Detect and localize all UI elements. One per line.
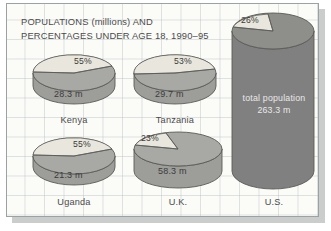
us-percent-label: 26% [241,15,259,25]
tanzania-percent-label: 53% [174,56,192,66]
tanzania-population-label: 29.7 m [155,89,184,99]
chart-uk[interactable]: 23% 58.3 m U.K. [129,126,227,213]
uganda-population-label: 21.3 m [54,170,83,180]
kenya-country-label: Kenya [28,115,120,125]
title-line-1: POPULATIONS (millions) AND [21,15,251,29]
us-population-label: 263.3 m [257,105,290,115]
us-country-label: U.S. [228,197,320,207]
title-line-2: PERCENTAGES UNDER AGE 18, 1990–95 [21,29,251,43]
chart-panel: POPULATIONS (millions) AND PERCENTAGES U… [6,3,319,217]
us-total-caption: total population [243,93,306,103]
chart-us[interactable]: 26% total population 263.3 m U.S. [228,7,320,213]
page-title: POPULATIONS (millions) AND PERCENTAGES U… [21,15,251,42]
tanzania-country-label: Tanzania [129,115,221,125]
uk-percent-label: 23% [141,133,159,143]
uganda-percent-label: 55% [73,139,91,149]
population-chart-figure: POPULATIONS (millions) AND PERCENTAGES U… [0,0,331,231]
chart-kenya[interactable]: 55% 28.3 m Kenya [28,46,120,130]
uk-country-label: U.K. [129,197,227,207]
kenya-percent-label: 55% [74,56,92,66]
uganda-country-label: Uganda [28,197,120,207]
uk-population-label: 58.3 m [158,166,187,176]
chart-uganda[interactable]: 55% 21.3 m Uganda [28,129,120,213]
chart-tanzania[interactable]: 53% 29.7 m Tanzania [129,46,221,130]
kenya-population-label: 28.3 m [54,89,83,99]
us-total-population-block: total population 263.3 m [228,92,320,116]
